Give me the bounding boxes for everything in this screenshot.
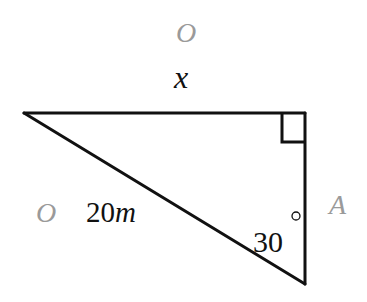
hypotenuse-value: 20 (86, 196, 115, 228)
adjacent-side-label: x (173, 59, 188, 95)
angle-value-label: 30 (253, 225, 283, 258)
right-triangle-diagram: O x O 20m A 30 (0, 0, 367, 302)
degree-symbol-icon (292, 212, 300, 220)
right-angle-marker (282, 113, 305, 142)
hypotenuse (24, 113, 305, 284)
ghost-label-a-right: A (327, 189, 347, 220)
hypotenuse-label: 20m (86, 196, 136, 228)
hypotenuse-unit: m (115, 196, 136, 228)
ghost-label-o-top: O (176, 17, 196, 48)
ghost-label-o-left: O (36, 197, 56, 228)
